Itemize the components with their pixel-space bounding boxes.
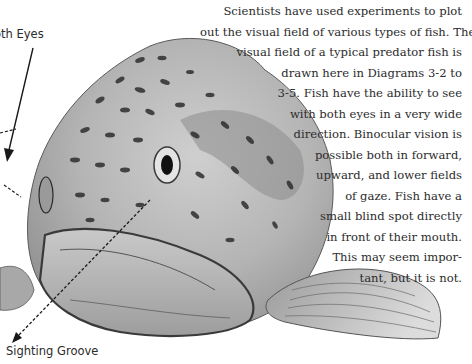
paragraph-line: in front of their mouth. <box>200 227 462 248</box>
paragraph-line: direction. Binocular vision is <box>200 124 462 145</box>
paragraph-line: This may seem impor- <box>200 247 462 268</box>
both-eyes-arrow <box>9 48 33 150</box>
paragraph-line: out the visual field of various types of… <box>200 22 462 43</box>
label-both-eyes: oth Eyes <box>0 27 44 41</box>
left-pectoral-fin <box>0 266 34 310</box>
left-eye <box>39 177 53 213</box>
paragraph-line: visual field of a typical predator fish … <box>200 42 462 63</box>
paragraph-line: with both eyes in a very wide <box>200 104 462 125</box>
paragraph-line: upward, and lower fields <box>200 165 462 186</box>
label-sighting-groove: Sighting Groove <box>6 344 98 358</box>
paragraph-line: Scientists have used experiments to plot <box>200 1 462 22</box>
paragraph-line: of gaze. Fish have a <box>200 186 462 207</box>
paragraph-line: possible both in forward, <box>200 145 462 166</box>
paragraph-line: small blind spot directly <box>200 206 462 227</box>
paragraph-line: 3-5. Fish have the ability to see <box>200 83 462 104</box>
paragraph-line: drawn here in Diagrams 3-2 to <box>200 63 462 84</box>
paragraph-line: tant, but it is not. <box>200 268 462 289</box>
body-paragraph: Scientists have used experiments to plot… <box>200 1 462 288</box>
